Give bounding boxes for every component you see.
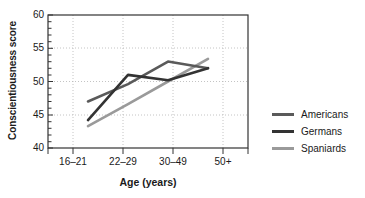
legend-item-spaniards: Spaniards (272, 140, 348, 157)
chart-legend: Americans Germans Spaniards (272, 106, 348, 157)
legend-label-spaniards: Spaniards (301, 143, 346, 154)
legend-label-americans: Americans (301, 109, 348, 120)
horizontal-gridlines (48, 48, 248, 115)
plot-area (0, 0, 365, 198)
legend-item-germans: Germans (272, 123, 348, 140)
x-axis-title: Age (years) (48, 176, 248, 188)
x-axis-ticks (48, 148, 248, 154)
x-tick-label-30-49: 30–49 (146, 157, 200, 167)
x-tick-label-16-21: 16–21 (46, 157, 100, 167)
legend-swatch-germans (272, 130, 294, 133)
x-tick-label-22-29: 22–29 (96, 157, 150, 167)
x-tick-label-50-plus: 50+ (196, 157, 250, 167)
legend-item-americans: Americans (272, 106, 348, 123)
y-axis-ticks (48, 15, 53, 148)
legend-label-germans: Germans (301, 126, 342, 137)
legend-swatch-spaniards (272, 147, 294, 150)
chart-figure: Conscientiousness score 60 55 50 45 40 (0, 0, 365, 198)
legend-swatch-americans (272, 113, 294, 116)
